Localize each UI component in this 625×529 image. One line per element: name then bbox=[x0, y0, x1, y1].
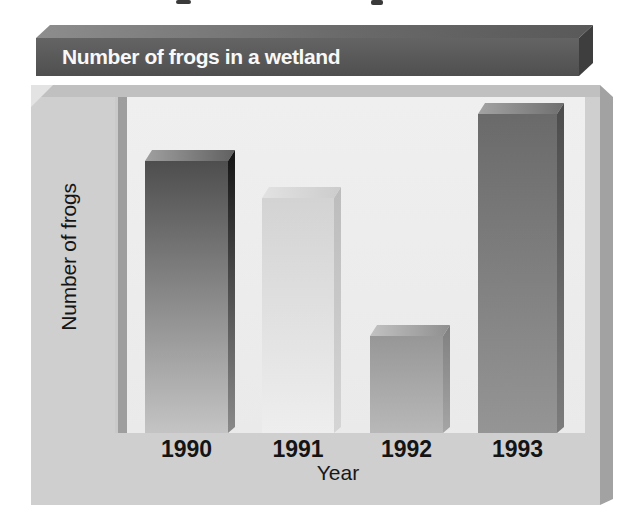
x-tick-label-1992: 1992 bbox=[362, 436, 452, 463]
x-tick-row: 1990199119921993 bbox=[0, 436, 625, 462]
title-slab: Number of frogs in a wetland bbox=[36, 38, 579, 76]
page-text-artifact bbox=[176, 0, 191, 4]
bar-1992-front bbox=[370, 336, 443, 433]
page-text-artifact bbox=[371, 0, 383, 5]
y-axis-label: Number of frogs bbox=[57, 147, 81, 367]
x-tick-label-1993: 1993 bbox=[473, 436, 563, 463]
x-tick-label-1991: 1991 bbox=[253, 436, 343, 463]
panel-top-edge bbox=[31, 85, 600, 97]
bar-1993-side bbox=[557, 103, 564, 433]
bar-1993-top bbox=[478, 103, 564, 114]
title-slab-top-face bbox=[36, 25, 593, 38]
bar-1992-side bbox=[443, 325, 450, 433]
bar-1991-top bbox=[262, 187, 341, 198]
frog-bar-chart-figure: Number of frogs in a wetland Number of f… bbox=[0, 0, 625, 529]
chart-title: Number of frogs in a wetland bbox=[36, 45, 340, 69]
bar-1993-front bbox=[478, 114, 557, 433]
bar-1991-side bbox=[334, 187, 341, 433]
bar-1991-front bbox=[262, 198, 334, 433]
x-tick-label-1990: 1990 bbox=[142, 436, 232, 463]
bar-1992-top bbox=[370, 325, 450, 336]
y-axis-line bbox=[115, 97, 127, 433]
bar-1990-front bbox=[145, 161, 228, 433]
bar-1990-top bbox=[145, 150, 235, 161]
bar-1990-side bbox=[228, 150, 235, 433]
x-axis-label: Year bbox=[238, 461, 438, 485]
